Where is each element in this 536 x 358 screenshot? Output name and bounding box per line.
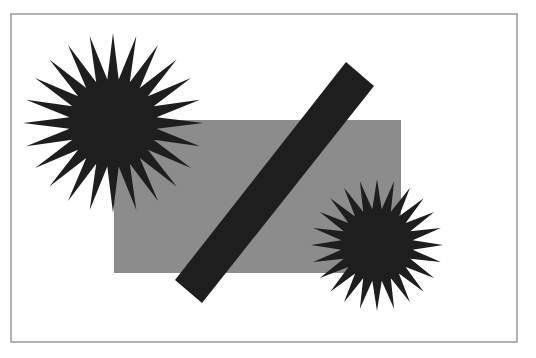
- figure-canvas: [0, 0, 536, 358]
- small-starburst-shape: [311, 179, 443, 311]
- large-starburst-shape: [23, 33, 203, 213]
